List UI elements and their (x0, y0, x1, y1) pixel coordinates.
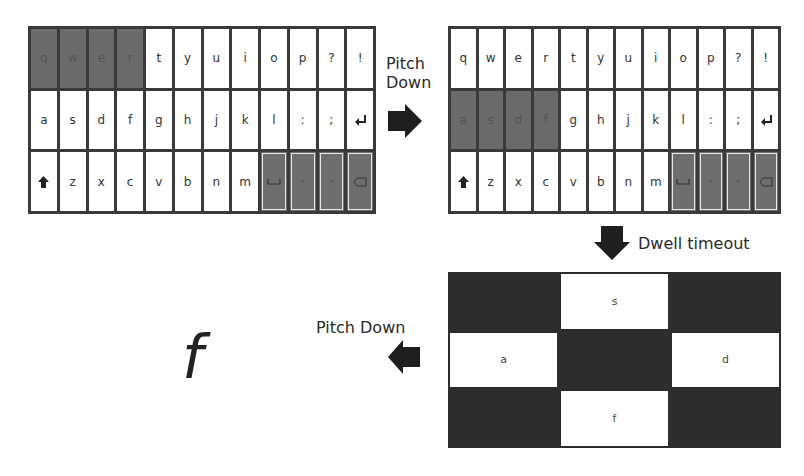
keyboard-initial: qwertyuiop?!asdfghjkl:;zxcvbnm·· (28, 26, 376, 214)
key[interactable]: p (290, 29, 316, 88)
grid-cell-bottom[interactable]: f (561, 391, 668, 446)
key[interactable]: : (699, 91, 724, 150)
arrow-right-icon (388, 104, 422, 138)
key-enter[interactable] (347, 91, 373, 150)
key[interactable]: m (232, 152, 258, 211)
key[interactable]: c (534, 152, 559, 211)
key[interactable]: y (589, 29, 614, 88)
key[interactable]: q (451, 29, 476, 88)
key[interactable]: b (175, 152, 201, 211)
shift-icon (38, 176, 49, 188)
key[interactable]: l (671, 91, 696, 150)
key[interactable]: · (699, 152, 724, 211)
key[interactable]: x (89, 152, 115, 211)
grid-cell-top[interactable]: s (561, 274, 668, 329)
key[interactable]: e (89, 29, 115, 88)
key[interactable]: ? (726, 29, 751, 88)
key[interactable]: k (644, 91, 669, 150)
key[interactable]: t (146, 29, 172, 88)
delete-icon (759, 177, 773, 187)
key[interactable]: n (204, 152, 230, 211)
key[interactable]: i (232, 29, 258, 88)
shift-icon (458, 176, 469, 188)
key[interactable]: u (616, 29, 641, 88)
key[interactable]: j (616, 91, 641, 150)
key-space[interactable] (671, 152, 696, 211)
key[interactable]: v (561, 152, 586, 211)
enter-icon (760, 114, 772, 126)
arrow-down-icon (594, 226, 630, 260)
key-shift[interactable] (31, 152, 57, 211)
key[interactable]: r (117, 29, 143, 88)
transition-label-dwell-timeout: Dwell timeout (638, 234, 750, 253)
key[interactable]: s (60, 91, 86, 150)
grid-cell-right[interactable]: d (672, 333, 779, 388)
key[interactable]: g (561, 91, 586, 150)
key-shift[interactable] (451, 152, 476, 211)
key[interactable]: f (117, 91, 143, 150)
key[interactable]: k (232, 91, 258, 150)
key[interactable]: ; (726, 91, 751, 150)
key[interactable]: : (290, 91, 316, 150)
key[interactable]: · (319, 152, 345, 211)
key[interactable]: d (506, 91, 531, 150)
transition-label-pitch-down-1: Pitch Down (386, 54, 431, 92)
grid-cell-empty (448, 389, 559, 448)
key[interactable]: x (506, 152, 531, 211)
enter-icon (354, 114, 366, 126)
key-enter[interactable] (754, 91, 779, 150)
grid-cell-empty (448, 272, 559, 331)
key[interactable]: b (589, 152, 614, 211)
space-icon (267, 179, 281, 185)
key[interactable]: w (479, 29, 504, 88)
key[interactable]: a (451, 91, 476, 150)
grid-cell-center (559, 331, 670, 390)
key[interactable]: s (479, 91, 504, 150)
key[interactable]: ? (319, 29, 345, 88)
grid-cell-empty (670, 272, 781, 331)
grid-cell-empty (670, 389, 781, 448)
key[interactable]: z (60, 152, 86, 211)
key-space[interactable] (261, 152, 287, 211)
selected-character: f (182, 322, 203, 392)
key[interactable]: ! (347, 29, 373, 88)
key[interactable]: · (726, 152, 751, 211)
key[interactable]: l (261, 91, 287, 150)
key[interactable]: a (31, 91, 57, 150)
key-delete[interactable] (347, 152, 373, 211)
arrow-left-icon (388, 340, 420, 374)
grid-cell-left[interactable]: a (450, 333, 557, 388)
key[interactable]: h (589, 91, 614, 150)
key[interactable]: q (31, 29, 57, 88)
label-line-2: Down (386, 73, 431, 92)
key[interactable]: d (89, 91, 115, 150)
key[interactable]: j (204, 91, 230, 150)
keyboard-row-selected: qwertyuiop?!asdfghjkl:;zxcvbnm·· (448, 26, 781, 214)
key[interactable]: t (561, 29, 586, 88)
key[interactable]: o (671, 29, 696, 88)
key[interactable]: ! (754, 29, 779, 88)
key[interactable]: c (117, 152, 143, 211)
key[interactable]: · (290, 152, 316, 211)
key[interactable]: n (616, 152, 641, 211)
key[interactable]: y (175, 29, 201, 88)
key[interactable]: z (479, 152, 504, 211)
key[interactable]: f (534, 91, 559, 150)
key[interactable]: v (146, 152, 172, 211)
key[interactable]: h (175, 91, 201, 150)
key[interactable]: ; (319, 91, 345, 150)
delete-icon (353, 177, 367, 187)
key[interactable]: i (644, 29, 669, 88)
label-line-1: Pitch (386, 54, 431, 73)
key-delete[interactable] (754, 152, 779, 211)
key[interactable]: r (534, 29, 559, 88)
key[interactable]: e (506, 29, 531, 88)
key[interactable]: o (261, 29, 287, 88)
selection-grid: s a d f (448, 272, 781, 448)
key[interactable]: g (146, 91, 172, 150)
key[interactable]: m (644, 152, 669, 211)
key[interactable]: u (204, 29, 230, 88)
transition-label-pitch-down-2: Pitch Down (316, 318, 405, 337)
key[interactable]: p (699, 29, 724, 88)
key[interactable]: w (60, 29, 86, 88)
